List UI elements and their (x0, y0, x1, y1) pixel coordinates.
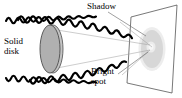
poisson-spot-diagram: Solid disk Shadow Bright spot (0, 0, 182, 98)
solid-disk (40, 25, 60, 73)
upper-diffracted-wave (18, 16, 132, 38)
label-shadow: Shadow (87, 1, 116, 11)
label-solid-disk: Solid disk (4, 36, 23, 56)
label-bright-spot: Bright spot (91, 66, 114, 86)
